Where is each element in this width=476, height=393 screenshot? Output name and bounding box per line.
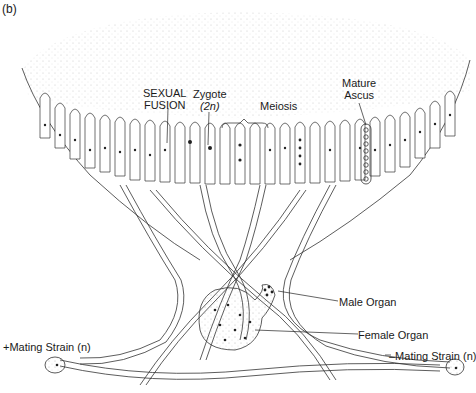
label-zygote-line2: (2n) xyxy=(193,100,227,112)
label-zygote: Zygote (2n) xyxy=(193,88,227,112)
label-zygote-line1: Zygote xyxy=(193,88,227,100)
label-plus-mating-strain: +Mating Strain (n) xyxy=(3,341,91,353)
label-mature-ascus: Mature Ascus xyxy=(342,77,376,101)
label-minus-mating-strain: –Mating Strain (n) xyxy=(389,350,476,362)
female-organ-shape xyxy=(199,284,275,350)
label-female-organ: Female Organ xyxy=(358,329,428,341)
label-meiosis: Meiosis xyxy=(260,100,297,112)
label-mature-ascus-line2: Ascus xyxy=(342,89,376,101)
label-male-organ: Male Organ xyxy=(339,296,396,308)
panel-label: (b) xyxy=(2,2,17,16)
label-mature-ascus-line1: Mature xyxy=(342,77,376,89)
label-sexual-fusion-line2: FUSION xyxy=(143,99,186,111)
label-sexual-fusion: SEXUAL FUSION xyxy=(143,87,186,111)
label-sexual-fusion-line1: SEXUAL xyxy=(143,87,186,99)
